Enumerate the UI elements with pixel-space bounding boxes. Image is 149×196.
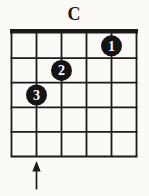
finger-number: 3 bbox=[33, 88, 40, 103]
chord-diagram: 123 bbox=[0, 0, 149, 196]
chord-chart: C 123 bbox=[0, 0, 149, 196]
arrow-head-icon bbox=[32, 161, 40, 172]
finger-number: 2 bbox=[58, 63, 65, 78]
finger-number: 1 bbox=[108, 39, 115, 54]
nut-bar bbox=[10, 29, 138, 34]
